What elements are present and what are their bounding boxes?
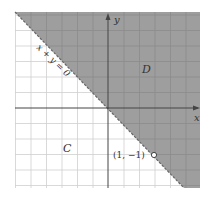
region-c-label: C [63,142,72,155]
point-label: (1, −1) [113,150,145,160]
open-point-marker [151,152,156,157]
y-axis-label: y [113,14,120,25]
x-axis-label: x [194,112,200,123]
region-d-label: D [141,63,151,76]
region-diagram: x y D C x + y = 0 (1, −1) [0,0,208,201]
